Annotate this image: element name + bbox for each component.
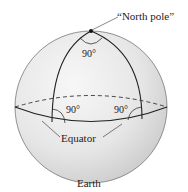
angle-top-label: 90° [82, 48, 96, 59]
equator-label: Equator [61, 132, 96, 144]
angle-left-label: 90° [66, 104, 80, 115]
angle-right-label: 90° [114, 104, 128, 115]
earth-diagram: “North pole” 90° 90° 90° Equator Earth [0, 0, 188, 192]
north-pole-label: “North pole” [117, 10, 174, 22]
north-pole-leader [92, 17, 118, 30]
earth-label: Earth [77, 177, 101, 189]
